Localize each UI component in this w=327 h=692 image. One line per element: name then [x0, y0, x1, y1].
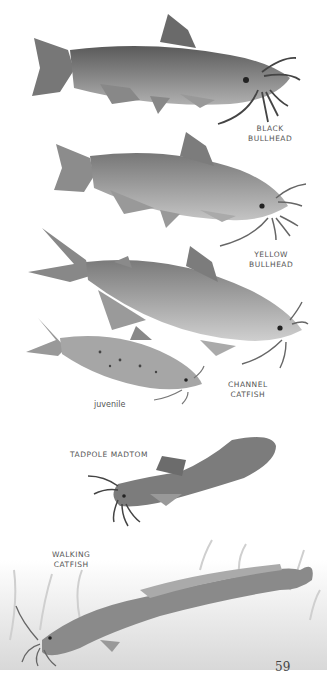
label-line: YELLOW	[249, 250, 293, 260]
catfish-illustrations	[0, 0, 327, 692]
walking-catfish-label: WALKING CATFISH	[52, 550, 90, 570]
label-line: CHANNEL	[228, 380, 268, 390]
channel-catfish-label: CHANNEL CATFISH	[228, 380, 268, 400]
tadpole-madtom-label: TADPOLE MADTOM	[70, 450, 148, 460]
label-line: TADPOLE MADTOM	[70, 450, 148, 460]
yellow-bullhead-illustration	[54, 132, 306, 246]
page-number: 59	[275, 660, 290, 674]
juvenile-channel-catfish-illustration	[26, 318, 204, 404]
black-bullhead-illustration	[32, 14, 300, 124]
label-line: BULLHEAD	[248, 134, 292, 144]
juvenile-label: juvenile	[94, 400, 125, 409]
label-line: CATFISH	[52, 560, 90, 570]
yellow-bullhead-label: YELLOW BULLHEAD	[249, 250, 293, 270]
black-bullhead-label: BLACK BULLHEAD	[248, 124, 292, 144]
label-line: WALKING	[52, 550, 90, 560]
label-line: CATFISH	[228, 390, 268, 400]
label-line: BLACK	[248, 124, 292, 134]
label-line: BULLHEAD	[249, 260, 293, 270]
field-guide-page: BLACK BULLHEAD YELLOW BULLHEAD CHANNEL C…	[0, 0, 327, 692]
